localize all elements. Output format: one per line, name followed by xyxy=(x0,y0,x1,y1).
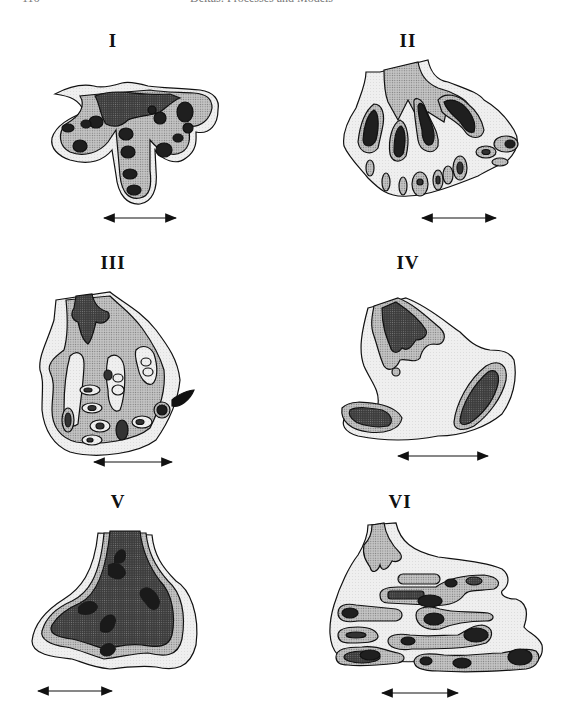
delta-diagram-v xyxy=(0,485,288,725)
delta-diagram-ii xyxy=(288,0,576,240)
panel-ii: II xyxy=(288,0,576,240)
panel-i: I xyxy=(0,0,288,240)
panel-vi: VI xyxy=(288,485,576,725)
delta-diagram-vi xyxy=(288,485,576,725)
delta-diagram-iii xyxy=(0,240,288,485)
delta-diagram-iv xyxy=(288,240,576,485)
panel-v: V xyxy=(0,485,288,725)
panel-iv: IV xyxy=(288,240,576,485)
panel-iii: III xyxy=(0,240,288,485)
delta-diagram-i xyxy=(0,0,288,240)
